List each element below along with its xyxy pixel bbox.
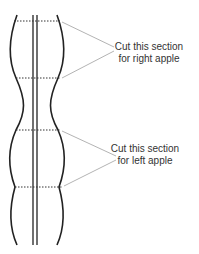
annotation-line: for right apple — [104, 53, 194, 65]
annotation-right-apple: Cut this section for right apple — [104, 41, 194, 65]
annotation-line: Cut this section — [100, 143, 190, 155]
apple-cutting-diagram — [0, 0, 199, 254]
annotation-left-apple: Cut this section for left apple — [100, 143, 190, 167]
annotation-line: Cut this section — [104, 41, 194, 53]
annotation-line: for left apple — [100, 155, 190, 167]
